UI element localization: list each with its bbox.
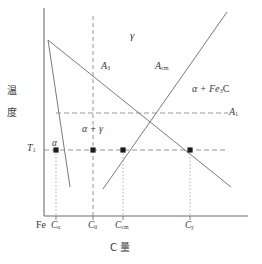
tick-label-c-cm-sub: cm <box>121 224 128 230</box>
region-label-alpha: α <box>52 139 57 149</box>
marker-c-zero <box>90 147 95 152</box>
tick-label-c-gamma-sub: γ <box>191 224 193 230</box>
tick-label-c-alpha: Cα <box>51 221 60 231</box>
a3-boundary-line <box>48 40 231 187</box>
a3-label-sub: 3 <box>107 64 110 71</box>
acm-boundary-line <box>103 12 227 189</box>
marker-c-cm <box>120 147 125 152</box>
t1-label-sub: 1 <box>33 146 36 153</box>
region-label-alpha-fe3c: α + Fe3C <box>192 84 229 95</box>
alpha-boundary-line <box>48 40 70 187</box>
origin-label-fe: Fe <box>36 220 46 230</box>
tick-label-c-zero-sub: 0 <box>94 224 97 230</box>
phase-diagram-figure: 温 度 C 量 Fe Cα C0 Ccm Cγ T1 A3 Acm A1 γ α… <box>0 0 262 264</box>
region-label-alpha-gamma: α + γ <box>82 124 103 134</box>
acm-label: Acm <box>155 61 169 72</box>
acm-label-sub: cm <box>161 64 169 71</box>
tick-label-c-alpha-sub: α <box>57 224 60 230</box>
region-label-gamma: γ <box>130 30 134 41</box>
tick-label-c-zero: C0 <box>88 221 97 231</box>
tick-label-c-cm: Ccm <box>115 221 129 231</box>
t1-label: T1 <box>27 143 36 154</box>
marker-c-gamma <box>187 147 192 152</box>
tick-label-c-gamma: Cγ <box>185 221 194 231</box>
x-axis-label: C 量 <box>110 243 130 253</box>
a1-label: A1 <box>229 107 238 118</box>
region-label-alpha-fe3c-post: C <box>223 83 230 94</box>
a1-label-sub: 1 <box>235 110 238 117</box>
a3-label: A3 <box>101 61 110 72</box>
y-axis-label-char-1: 度 <box>4 104 20 119</box>
region-label-alpha-fe3c-pre: α + Fe <box>192 83 220 94</box>
y-axis-label-char-0: 温 <box>4 82 20 97</box>
y-axis-label: 温 度 <box>4 82 20 126</box>
